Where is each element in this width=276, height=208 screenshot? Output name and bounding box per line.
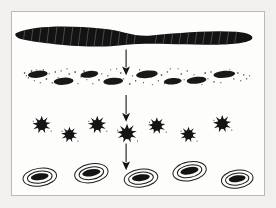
- figure-diagram: Segmented worm: [12, 12, 264, 195]
- stage-2-fragmenting-band: Fragmenting band: [24, 68, 250, 85]
- blob: [61, 127, 77, 142]
- blob: [117, 124, 137, 143]
- cell: [22, 166, 58, 188]
- cell: [123, 167, 159, 189]
- cell: [220, 168, 254, 190]
- blob: [88, 116, 106, 133]
- blob-group: [32, 115, 231, 142]
- figure-panel: Segmented worm: [11, 11, 265, 196]
- band-clusters: [28, 69, 236, 85]
- cell: [171, 159, 208, 184]
- cell: [73, 161, 109, 185]
- blob: [32, 116, 50, 133]
- stage-4-encysted-cells: Encysted oval cells: [22, 159, 254, 190]
- blob: [213, 115, 231, 132]
- stage-3-separated-blobs: Separated blobs: [32, 115, 232, 142]
- stage-1-segmented-worm: Segmented worm: [15, 22, 252, 52]
- blob: [180, 127, 196, 142]
- blob: [148, 117, 165, 134]
